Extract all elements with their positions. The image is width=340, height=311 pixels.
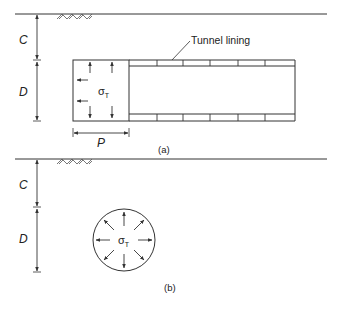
caption-a: (a) [158,144,170,155]
lining-leader-line [172,41,190,60]
caption-b: (b) [164,282,176,293]
lining-segment-joints [157,60,265,121]
label-d: D [19,85,28,99]
tunnel-lining [129,60,295,121]
label-c: C [19,33,28,47]
figure-a: C D σT [15,14,327,155]
label-d: D [19,232,28,246]
dimension-d: D [19,209,41,272]
dimension-p: P [73,128,129,150]
dimension-c: C [19,15,41,60]
tunnel-diagram: C D σT [0,0,340,311]
label-p: P [97,136,105,150]
figure-b: C D σT (b) [15,159,327,293]
dimension-d: D [19,62,41,121]
tunnel-lining-label: Tunnel lining [191,34,250,46]
ground-hatch-icon [57,159,92,164]
sigma-t-label: σT [98,85,110,99]
face-pressure-arrows [77,62,112,118]
ground-hatch-icon [57,14,92,19]
sigma-t-label: σT [118,234,130,248]
dimension-c: C [19,160,41,207]
label-c: C [19,178,28,192]
